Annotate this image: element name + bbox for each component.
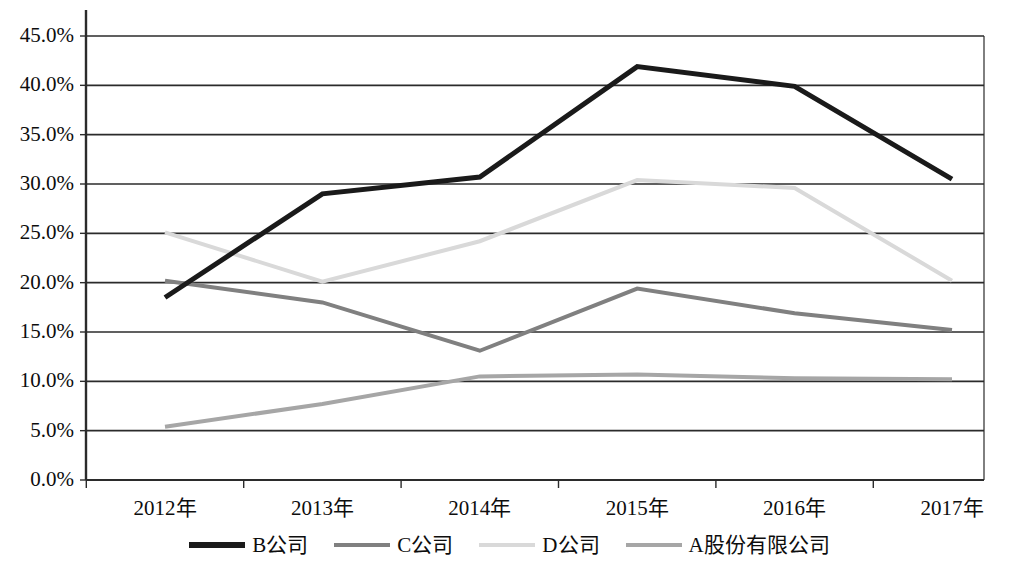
series-line — [165, 67, 952, 298]
legend-item[interactable]: B公司 — [189, 534, 308, 557]
legend-line-icon — [334, 543, 390, 547]
series-line — [165, 180, 952, 282]
legend-line-icon — [626, 543, 682, 547]
legend-item[interactable]: C公司 — [334, 534, 453, 557]
legend-label: A股份有限公司 — [689, 534, 830, 557]
legend-line-icon — [479, 543, 535, 547]
series-line — [165, 281, 952, 351]
legend-line-icon — [189, 542, 245, 548]
legend-label: D公司 — [542, 534, 599, 557]
legend-item[interactable]: A股份有限公司 — [626, 534, 830, 557]
legend-item[interactable]: D公司 — [479, 534, 599, 557]
plot-area — [0, 0, 1019, 567]
legend-label: B公司 — [252, 534, 308, 557]
chart-legend: B公司C公司D公司A股份有限公司 — [0, 528, 1019, 562]
line-chart: 0.0%5.0%10.0%15.0%20.0%25.0%30.0%35.0%40… — [0, 0, 1019, 567]
series-line — [165, 374, 952, 426]
legend-label: C公司 — [397, 534, 453, 557]
